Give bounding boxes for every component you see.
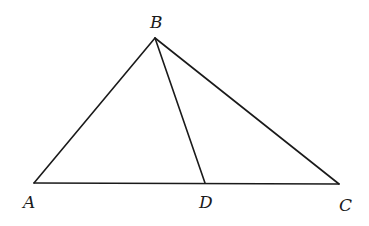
triangle-diagram: B A D C bbox=[0, 0, 369, 226]
label-a: A bbox=[21, 192, 35, 212]
label-b: B bbox=[149, 12, 163, 32]
segment-bd bbox=[155, 38, 205, 183]
label-c: C bbox=[339, 195, 352, 215]
segment-bc bbox=[155, 38, 339, 184]
segment-ac bbox=[34, 183, 339, 184]
label-d: D bbox=[198, 192, 213, 212]
segment-ab bbox=[34, 38, 155, 183]
